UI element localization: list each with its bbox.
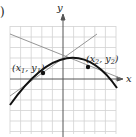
x-axis-label: x — [126, 73, 132, 84]
point-1-label: (x1, y1) — [12, 62, 45, 75]
parabola-tangent-diagram: ) y x (x1, y1) (x2, y2) — [0, 0, 136, 137]
y-axis-label: y — [56, 2, 63, 13]
point-2-label: (x2, y2) — [86, 53, 119, 66]
y-axis-arrow-icon — [61, 14, 65, 20]
point-2-marker — [86, 65, 90, 69]
panel-marker: ) — [0, 5, 5, 19]
